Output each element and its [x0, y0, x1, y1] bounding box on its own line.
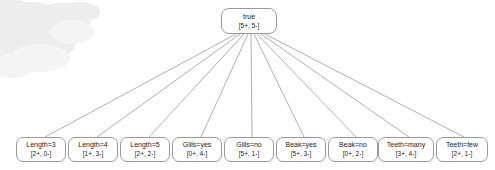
- leaf-node-counts: [5+, 1-]: [239, 150, 259, 158]
- leaf-node-label: Beak=no: [339, 141, 367, 149]
- leaf-node-counts: [0+, 2-]: [343, 150, 363, 158]
- leaf-node-label: Teeth=few: [446, 141, 478, 149]
- leaf-node-counts: [2+, 0-]: [31, 150, 51, 158]
- leaf-node-counts: [2+, 1-]: [452, 150, 472, 158]
- leaf-node-beak-no[interactable]: Beak=no [0+, 2-]: [328, 137, 378, 162]
- leaf-node-label: Length=3: [26, 141, 55, 149]
- leaf-node-label: Length=5: [130, 141, 159, 149]
- tree-edge: [97, 34, 240, 137]
- leaf-node-counts: [1+, 3-]: [83, 150, 103, 158]
- leaf-node-beak-yes[interactable]: Beak=yes [5+, 3-]: [276, 137, 326, 162]
- tree-edge: [45, 34, 236, 137]
- leaf-node-counts: [2+, 2-]: [135, 150, 155, 158]
- leaf-node-counts: [0+, 4-]: [187, 150, 207, 158]
- leaf-node-teeth-many[interactable]: Teeth=many [3+, 4-]: [378, 137, 434, 162]
- leaf-node-length-5[interactable]: Length=5 [2+, 2-]: [120, 137, 170, 162]
- root-node-label: true: [243, 13, 255, 21]
- tree-edge: [254, 34, 304, 137]
- leaf-node-length-3[interactable]: Length=3 [2+, 0-]: [16, 137, 66, 162]
- decision-tree-diagram: true [5+, 5-] Length=3 [2+, 0-] Length=4…: [0, 0, 495, 170]
- leaf-node-gills-yes[interactable]: Gills=yes [0+, 4-]: [172, 137, 222, 162]
- tree-edge: [265, 34, 464, 137]
- tree-edge: [257, 34, 356, 137]
- leaf-node-counts: [5+, 3-]: [291, 150, 311, 158]
- leaf-node-counts: [3+, 4-]: [396, 150, 416, 158]
- leaf-node-length-4[interactable]: Length=4 [1+, 3-]: [68, 137, 118, 162]
- leaf-node-label: Beak=yes: [286, 141, 317, 149]
- leaf-node-teeth-few[interactable]: Teeth=few [2+, 1-]: [436, 137, 488, 162]
- tree-edge: [149, 34, 244, 137]
- leaf-node-gills-no[interactable]: Gills=no [5+, 1-]: [224, 137, 274, 162]
- root-node-counts: [5+, 5-]: [239, 22, 259, 30]
- leaf-node-label: Gills=yes: [183, 141, 212, 149]
- tree-edge: [261, 34, 409, 137]
- leaf-node-label: Gills=no: [236, 141, 261, 149]
- root-node[interactable]: true [5+, 5-]: [221, 8, 277, 34]
- tree-edge: [251, 34, 252, 137]
- leaf-node-label: Teeth=many: [387, 141, 425, 149]
- leaf-node-label: Length=4: [78, 141, 107, 149]
